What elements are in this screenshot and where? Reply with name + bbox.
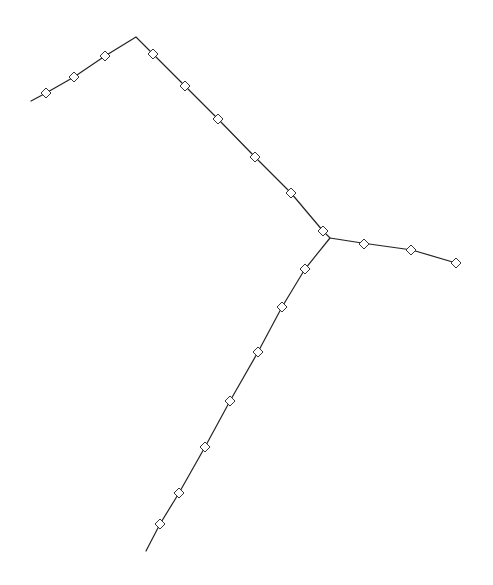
branched-path-diagram xyxy=(0,0,493,585)
diagram-edges xyxy=(31,37,456,551)
upper-left-arm-line xyxy=(31,37,323,231)
right-arm-line xyxy=(323,231,456,263)
diamond-node-icon xyxy=(225,396,235,406)
diamond-node-icon xyxy=(277,302,287,312)
diamond-node-icon xyxy=(451,258,461,268)
diamond-node-icon xyxy=(174,488,184,498)
diamond-node-icon xyxy=(253,347,263,357)
diamond-node-icon xyxy=(155,519,165,529)
diamond-node-icon xyxy=(406,245,416,255)
diamond-node-icon xyxy=(100,51,110,61)
diagram-nodes xyxy=(41,49,461,529)
diamond-node-icon xyxy=(200,442,210,452)
diamond-node-icon xyxy=(359,239,369,249)
diamond-node-icon xyxy=(41,88,51,98)
diamond-node-icon xyxy=(69,72,79,82)
lower-arm-line xyxy=(146,238,330,551)
